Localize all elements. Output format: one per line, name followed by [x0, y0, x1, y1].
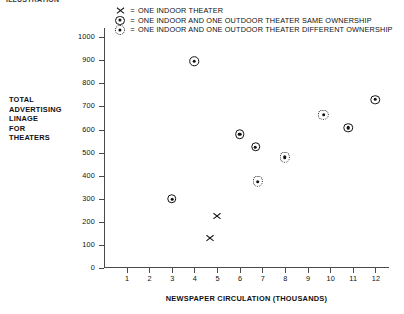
- y-tick-700: 700: [99, 106, 104, 107]
- x-tick-3: 3: [172, 268, 173, 273]
- x-marker-icon: [113, 6, 127, 16]
- legend-item-indoor: = ONE INDOOR THEATER: [113, 6, 399, 16]
- y-tick-label-300: 300: [82, 194, 95, 203]
- y-tick-1000: 1000: [99, 37, 104, 38]
- x-tick-7: 7: [262, 268, 263, 273]
- x-tick-9: 9: [308, 268, 309, 273]
- cropped-top-caption: ILLUSTRATION: [6, 0, 96, 5]
- circle-dot-marker-icon: [113, 16, 127, 26]
- x-tick-label-1: 1: [125, 274, 129, 283]
- data-point: [253, 176, 264, 187]
- y-tick-label-200: 200: [82, 217, 95, 226]
- y-tick-label-400: 400: [82, 171, 95, 180]
- legend-label-same-ownership: ONE INDOOR AND ONE OUTDOOR THEATER SAME …: [138, 16, 372, 25]
- y-axis-title-line-0: TOTAL: [9, 95, 71, 105]
- y-tick-500: 500: [99, 153, 104, 154]
- x-tick-4: 4: [194, 268, 195, 273]
- x-tick-label-3: 3: [170, 274, 174, 283]
- data-point: [190, 57, 200, 67]
- legend-equals-sign: =: [127, 16, 138, 25]
- x-tick-label-10: 10: [326, 274, 335, 283]
- y-axis-title-line-1: ADVERTISING: [9, 105, 71, 115]
- y-tick-800: 800: [99, 83, 104, 84]
- data-point: [206, 234, 215, 243]
- x-tick-label-11: 11: [349, 274, 357, 283]
- x-tick-2: 2: [149, 268, 150, 273]
- y-tick-label-700: 700: [82, 101, 95, 110]
- data-point: [251, 142, 261, 152]
- y-tick-400: 400: [99, 176, 104, 177]
- y-tick-label-100: 100: [82, 240, 95, 249]
- x-axis-line: [104, 267, 389, 268]
- legend-label-indoor: ONE INDOOR THEATER: [138, 6, 223, 15]
- x-tick-label-2: 2: [148, 274, 152, 283]
- x-tick-label-12: 12: [372, 274, 381, 283]
- data-point: [344, 123, 354, 133]
- x-tick-label-6: 6: [238, 274, 242, 283]
- legend-equals-sign: =: [127, 6, 138, 15]
- data-point: [318, 109, 329, 120]
- y-axis-title-line-4: THEATERS: [9, 133, 71, 143]
- y-tick-label-0: 0: [91, 263, 95, 272]
- y-axis-title-line-3: FOR: [9, 124, 71, 134]
- data-point: [235, 129, 245, 139]
- x-tick-6: 6: [240, 268, 241, 273]
- y-tick-label-1000: 1000: [78, 32, 95, 41]
- y-axis-title: TOTALADVERTISINGLINAGEFORTHEATERS: [9, 95, 71, 143]
- y-axis-title-line-2: LINAGE: [9, 114, 71, 124]
- y-tick-label-600: 600: [82, 125, 95, 134]
- y-tick-0: 0: [99, 268, 104, 269]
- y-axis-line: [104, 28, 105, 268]
- x-tick-12: 12: [375, 268, 376, 273]
- y-tick-200: 200: [99, 222, 104, 223]
- data-point: [280, 152, 291, 163]
- x-tick-1: 1: [127, 268, 128, 273]
- y-tick-900: 900: [99, 60, 104, 61]
- data-point: [167, 194, 177, 204]
- x-tick-label-7: 7: [261, 274, 265, 283]
- legend-item-same-ownership: = ONE INDOOR AND ONE OUTDOOR THEATER SAM…: [113, 16, 399, 26]
- scatter-plot-area: 01002003004005006007008009001000 1234567…: [104, 28, 389, 268]
- data-point: [213, 212, 222, 221]
- y-tick-300: 300: [99, 199, 104, 200]
- y-tick-label-900: 900: [82, 55, 95, 64]
- y-tick-600: 600: [99, 130, 104, 131]
- data-point: [371, 95, 381, 105]
- x-tick-8: 8: [285, 268, 286, 273]
- x-tick-10: 10: [330, 268, 331, 273]
- x-tick-label-8: 8: [283, 274, 287, 283]
- y-tick-label-500: 500: [82, 148, 95, 157]
- y-tick-label-800: 800: [82, 78, 95, 87]
- y-tick-100: 100: [99, 245, 104, 246]
- x-tick-label-9: 9: [306, 274, 310, 283]
- x-axis-title: NEWSPAPER CIRCULATION (THOUSANDS): [104, 294, 389, 303]
- x-tick-5: 5: [217, 268, 218, 273]
- x-tick-label-5: 5: [215, 274, 219, 283]
- x-tick-11: 11: [353, 268, 354, 273]
- x-tick-label-4: 4: [193, 274, 197, 283]
